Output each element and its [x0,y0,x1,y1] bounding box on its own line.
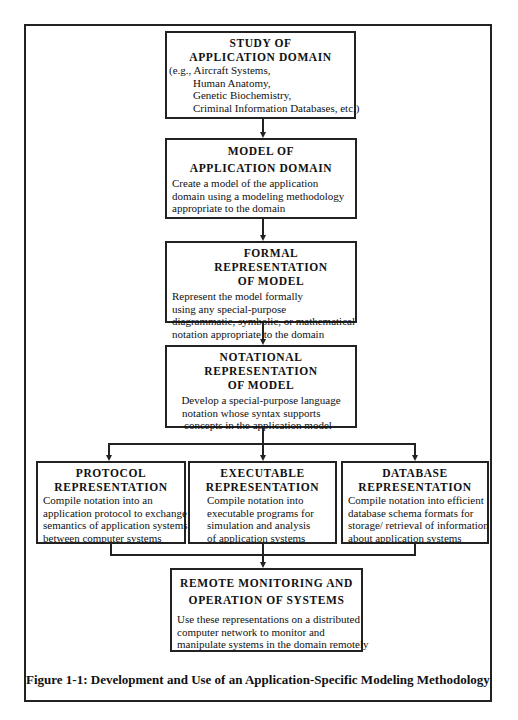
box-text: semantics of application systems [43,519,179,532]
box-title: DATABASE [348,466,482,480]
box-title: REPRESENTATION [43,480,179,494]
box-text: Human Anatomy, [169,77,352,90]
box-text: Compile notation into [195,494,330,507]
box-title: EXECUTABLE [195,466,330,480]
connector-line [262,428,264,455]
notational-representation-box: NOTATIONAL REPRESENTATION OF MODEL Devel… [165,345,357,428]
connector-line [262,219,264,235]
box-text: appropriate to the domain [172,202,350,215]
box-title: REPRESENTATION [195,480,330,494]
box-title: PROTOCOL [43,466,179,480]
box-text: notation whose syntax supports [172,407,350,420]
box-text: executable programs for [195,507,330,520]
branch-line [108,443,416,445]
box-title: NOTATIONAL [172,350,350,364]
merge-line [110,554,416,556]
box-text: using any special-purpose [172,303,350,316]
box-text: diagrammatic, symbolic, or mathematical [172,315,350,328]
executable-representation-box: EXECUTABLE REPRESENTATION Compile notati… [188,461,337,544]
box-text: simulation and analysis [195,519,330,532]
box-title: REMOTE MONITORING AND [177,576,356,590]
box-text: application protocol to exchange [43,507,179,520]
database-representation-box: DATABASE REPRESENTATION Compile notation… [341,461,489,544]
box-title: REPRESENTATION [348,480,482,494]
connector-line [262,323,264,339]
box-text: between computer systems [43,532,179,545]
box-text: Compile notation into efficient [348,494,482,507]
box-text: database schema formats for [348,507,482,520]
box-title: REPRESENTATION [172,364,350,378]
connector-line [108,443,110,455]
model-of-application-domain-box: MODEL OF APPLICATION DOMAIN Create a mod… [165,138,357,219]
box-text: Genetic Biochemistry, [169,89,352,102]
box-title: APPLICATION DOMAIN [169,50,352,64]
box-text: Create a model of the application [172,177,350,190]
box-title: OF MODEL [172,274,350,288]
connector-line [414,443,416,455]
connector-line [262,544,264,562]
study-of-application-domain-box: STUDY OF APPLICATION DOMAIN (e.g., Aircr… [165,31,356,119]
box-title: OPERATION OF SYSTEMS [177,593,356,607]
connector-line [262,119,264,133]
box-title: OF MODEL [172,378,350,392]
box-text: Criminal Information Databases, etc.) [169,102,352,115]
box-text: Represent the model formally [172,290,350,303]
box-title: FORMAL REPRESENTATION [172,246,350,274]
box-text: Use these representations on a distribut… [177,613,356,626]
box-title: STUDY OF [169,36,352,50]
box-text: Compile notation into an [43,494,179,507]
box-text: (e.g., Aircraft Systems, [169,64,352,77]
box-text: of application systems [195,532,330,545]
protocol-representation-box: PROTOCOL REPRESENTATION Compile notation… [36,461,186,544]
figure-caption: Figure 1-1: Development and Use of an Ap… [26,672,492,688]
box-text: concepts in the application model [172,419,350,432]
formal-representation-box: FORMAL REPRESENTATION OF MODEL Represent… [165,241,357,323]
box-text: manipulate systems in the domain remotel… [177,638,356,651]
box-text: computer network to monitor and [177,626,356,639]
box-title: APPLICATION DOMAIN [172,161,350,175]
box-text: about application systems [348,532,482,545]
box-text: domain using a modeling methodology [172,190,350,203]
remote-monitoring-box: REMOTE MONITORING AND OPERATION OF SYSTE… [170,568,363,652]
box-title: MODEL OF [172,144,350,158]
box-text: Develop a special-purpose language [172,394,350,407]
box-text: storage/ retrieval of information [348,519,482,532]
